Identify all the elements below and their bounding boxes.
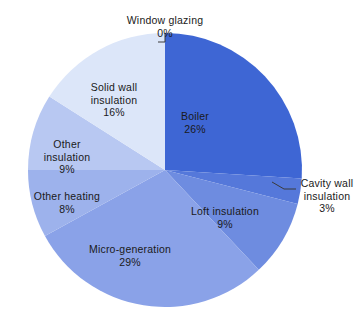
label-solid-wall-insulation-name-line1: Solid wall [76,81,152,94]
label-micro-generation: Micro-generation 29% [75,243,185,268]
label-micro-generation-name: Micro-generation [75,243,185,256]
label-cavity-wall-insulation-value: 3% [291,202,363,215]
pie-chart: Window glazing 0% Boiler 26% Cavity wall… [0,0,363,319]
label-loft-insulation-value: 9% [182,218,268,231]
label-other-insulation-name-line2: insulation [31,151,103,164]
label-cavity-wall-insulation: Cavity wall insulation 3% [291,177,363,215]
label-loft-insulation-name: Loft insulation [182,205,268,218]
label-micro-generation-value: 29% [75,256,185,269]
label-other-insulation-value: 9% [31,163,103,176]
label-window-glazing-value: 0% [107,27,223,40]
label-solid-wall-insulation: Solid wall insulation 16% [76,81,152,119]
pie-slice-boiler[interactable] [165,33,302,179]
label-window-glazing-name: Window glazing [107,14,223,27]
label-window-glazing: Window glazing 0% [107,14,223,39]
label-cavity-wall-insulation-name-line1: Cavity wall [291,177,363,190]
label-other-heating-value: 8% [24,203,110,216]
label-boiler-name: Boiler [160,110,230,123]
label-solid-wall-insulation-name-line2: insulation [76,94,152,107]
label-loft-insulation: Loft insulation 9% [182,205,268,230]
label-boiler: Boiler 26% [160,110,230,135]
label-other-heating-name: Other heating [24,190,110,203]
label-cavity-wall-insulation-name-line2: insulation [291,190,363,203]
label-boiler-value: 26% [160,123,230,136]
label-other-insulation: Other insulation 9% [31,138,103,176]
label-other-insulation-name-line1: Other [31,138,103,151]
label-solid-wall-insulation-value: 16% [76,106,152,119]
label-other-heating: Other heating 8% [24,190,110,215]
